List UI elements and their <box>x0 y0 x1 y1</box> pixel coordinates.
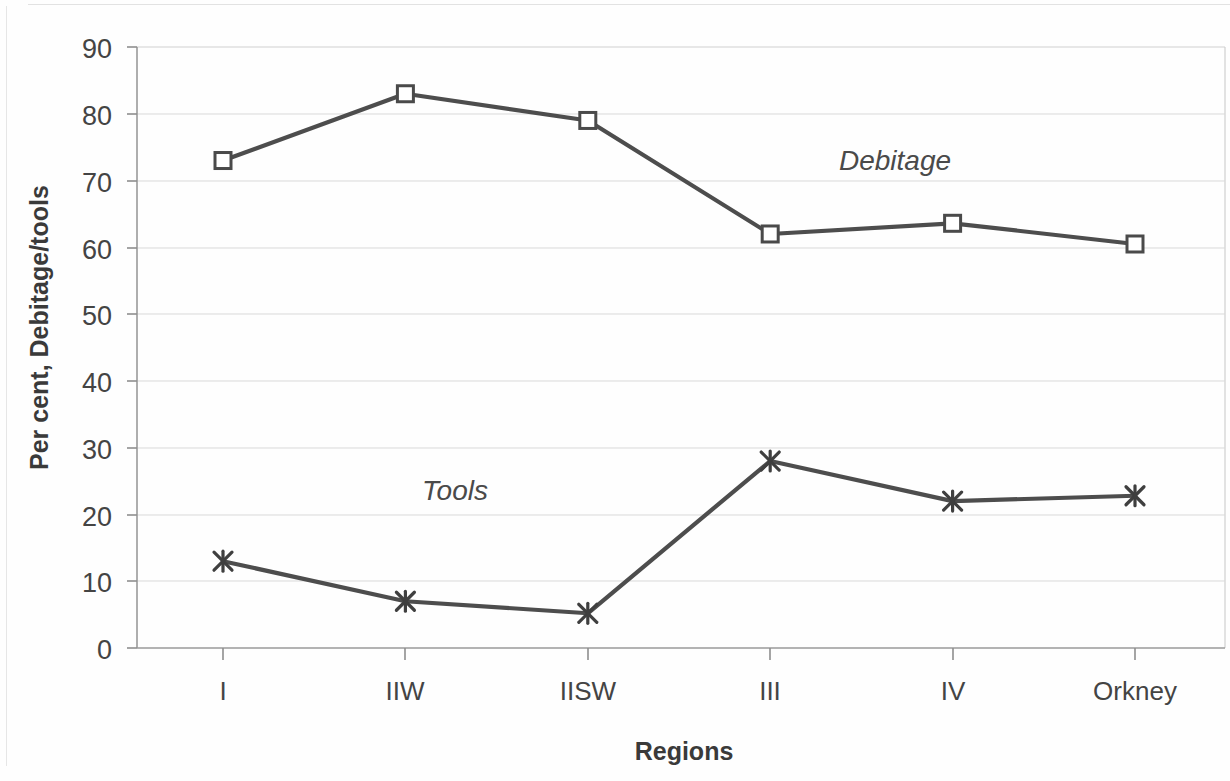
x-tick-labels: I IIW IISW III IV Orkney <box>219 676 1177 706</box>
line-chart-svg: 90 80 70 60 50 40 30 20 10 0 I IIW IISW … <box>0 0 1230 781</box>
x-tick-label: IV <box>941 676 966 706</box>
axis-lines <box>137 47 1225 648</box>
y-tick-label: 30 <box>82 435 112 465</box>
series-tools <box>214 451 1144 623</box>
x-tick-label: III <box>759 676 781 706</box>
y-tick-label: 20 <box>82 502 112 532</box>
y-tick-label: 10 <box>82 568 112 598</box>
gridlines-horizontal <box>137 114 1225 581</box>
y-tick-label: 0 <box>97 635 112 665</box>
debitage-series-annotation: Debitage <box>839 145 951 176</box>
data-point-marker <box>945 215 961 231</box>
x-tick-label: I <box>219 676 226 706</box>
y-tick-label: 50 <box>82 301 112 331</box>
y-tick-label: 40 <box>82 368 112 398</box>
data-point-marker <box>762 226 778 242</box>
data-point-marker <box>397 86 413 102</box>
tools-series-annotation: Tools <box>422 475 488 506</box>
data-point-marker <box>1127 236 1143 252</box>
tools-line <box>223 461 1135 613</box>
y-tick-label: 60 <box>82 235 112 265</box>
x-tick-label: Orkney <box>1093 676 1177 706</box>
chart-figure: 90 80 70 60 50 40 30 20 10 0 I IIW IISW … <box>0 0 1230 781</box>
data-point-marker <box>580 112 596 128</box>
x-tick-label: IIW <box>386 676 425 706</box>
data-point-marker <box>215 153 231 169</box>
x-tick-label: IISW <box>560 676 617 706</box>
x-tick-marks <box>223 648 1135 660</box>
debitage-line <box>223 94 1135 244</box>
x-axis-title: Regions <box>635 737 734 765</box>
plot-frame <box>137 47 1225 648</box>
y-axis-title: Per cent, Debitage/tools <box>25 185 53 470</box>
y-tick-labels: 90 80 70 60 50 40 30 20 10 0 <box>82 34 112 665</box>
y-tick-marks <box>127 47 137 648</box>
y-tick-label: 90 <box>82 34 112 64</box>
y-tick-label: 70 <box>82 168 112 198</box>
series-debitage <box>215 86 1143 252</box>
y-tick-label: 80 <box>82 101 112 131</box>
